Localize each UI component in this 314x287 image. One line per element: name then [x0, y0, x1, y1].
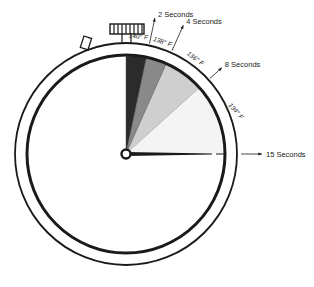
center-pivot	[122, 150, 131, 159]
time-label-15s: 15 Seconds	[266, 150, 306, 159]
arrowhead-icon	[153, 18, 156, 22]
stopwatch-diagram: 140° F2 Seconds138° F4 Seconds136° F8 Se…	[0, 0, 314, 287]
time-label-4s: 4 Seconds	[186, 17, 222, 26]
arrow-4s	[172, 25, 183, 51]
temperature-label: 138° F	[152, 35, 173, 48]
side-button	[80, 36, 91, 50]
time-label-8s: 8 Seconds	[225, 60, 261, 69]
temperature-label: 134° F	[227, 101, 246, 121]
arrowhead-icon	[258, 152, 262, 155]
time-wedges	[126, 56, 224, 154]
temperature-label: 136° F	[186, 50, 206, 68]
